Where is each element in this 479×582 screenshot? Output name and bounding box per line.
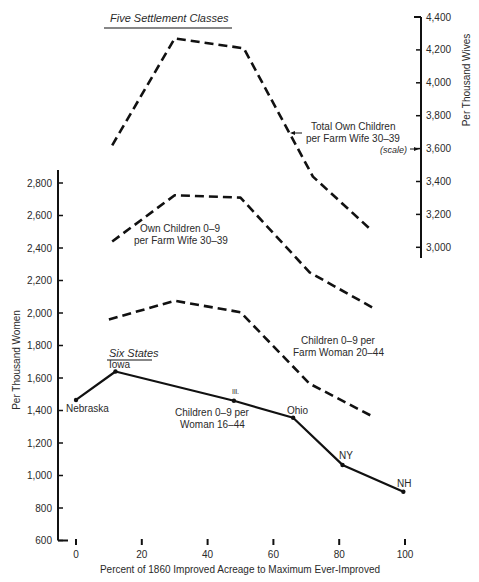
point-label-nh: NH bbox=[397, 478, 411, 489]
left-tick-label: 2,000 bbox=[27, 308, 52, 319]
annotation-woman-16-44-line2: Woman 16–44 bbox=[180, 419, 245, 430]
scale-arrowhead-icon bbox=[414, 147, 419, 151]
data-point-marker bbox=[340, 463, 344, 467]
point-label-ill: Ill. bbox=[232, 388, 239, 395]
point-label-nebraska: Nebraska bbox=[66, 403, 109, 414]
left-tick-label: 1,600 bbox=[27, 373, 52, 384]
heading-six-states: Six States bbox=[109, 347, 159, 359]
series-line bbox=[76, 372, 403, 492]
data-point-marker bbox=[291, 416, 295, 420]
point-label-ohio: Ohio bbox=[287, 405, 309, 416]
x-axis: 020406080100 bbox=[73, 539, 414, 560]
left-tick-label: 1,200 bbox=[27, 438, 52, 449]
x-tick-label: 0 bbox=[73, 549, 79, 560]
x-tick-label: 100 bbox=[397, 549, 414, 560]
left-tick-label: 2,400 bbox=[27, 243, 52, 254]
x-tick-label: 80 bbox=[334, 549, 346, 560]
fertility-chart: 6008001,0001,2001,4001,6001,8002,0002,20… bbox=[0, 0, 479, 582]
annotation-scale-note: (scale) bbox=[380, 145, 407, 155]
data-point-marker bbox=[74, 398, 78, 402]
left-tick-label: 600 bbox=[35, 535, 52, 546]
annotation-total-own-children-line2: per Farm Wife 30–39 bbox=[306, 133, 400, 144]
annotation-own-children-line2: per Farm Wife 30–39 bbox=[134, 235, 228, 246]
x-tick-label: 40 bbox=[202, 549, 214, 560]
annotation-own-children-line1: Own Children 0–9 bbox=[140, 223, 220, 234]
right-tick-label: 3,600 bbox=[426, 143, 451, 154]
right-y-axis: 3,0003,2003,4003,6003,8004,0004,2004,400 bbox=[414, 12, 451, 259]
right-y-axis-title: Per Thousand Wives bbox=[461, 34, 472, 127]
series-line bbox=[112, 195, 372, 307]
data-point-marker bbox=[232, 399, 236, 403]
right-tick-label: 3,800 bbox=[426, 110, 451, 121]
annotation-farm-woman-line2: Farm Woman 20–44 bbox=[293, 347, 384, 358]
left-tick-label: 800 bbox=[35, 503, 52, 514]
right-tick-label: 4,400 bbox=[426, 12, 451, 23]
right-tick-label: 3,400 bbox=[426, 176, 451, 187]
x-axis-title: Percent of 1860 Improved Acreage to Maxi… bbox=[100, 564, 380, 575]
left-y-axis-title: Per Thousand Women bbox=[11, 310, 22, 410]
left-tick-label: 2,600 bbox=[27, 210, 52, 221]
x-tick-label: 60 bbox=[268, 549, 280, 560]
annotation-woman-16-44-line1: Children 0–9 per bbox=[175, 407, 250, 418]
annotation-arrowhead-icon bbox=[290, 131, 295, 135]
left-tick-label: 1,800 bbox=[27, 340, 52, 351]
left-tick-label: 2,200 bbox=[27, 275, 52, 286]
annotation-farm-woman-line1: Children 0–9 per bbox=[301, 335, 376, 346]
right-tick-label: 4,200 bbox=[426, 44, 451, 55]
left-y-axis: 6008001,0001,2001,4001,6001,8002,0002,20… bbox=[27, 170, 68, 546]
left-tick-label: 1,400 bbox=[27, 405, 52, 416]
right-tick-label: 3,200 bbox=[426, 209, 451, 220]
point-label-iowa: Iowa bbox=[109, 359, 131, 370]
heading-five-settlement-classes: Five Settlement Classes bbox=[110, 12, 229, 24]
right-tick-label: 3,000 bbox=[426, 242, 451, 253]
right-tick-label: 4,000 bbox=[426, 77, 451, 88]
x-tick-label: 20 bbox=[136, 549, 148, 560]
annotation-total-own-children-line1: Total Own Children bbox=[311, 121, 395, 132]
left-tick-label: 1,000 bbox=[27, 470, 52, 481]
data-point-marker bbox=[401, 490, 405, 494]
point-label-ny: NY bbox=[339, 450, 353, 461]
left-tick-label: 2,800 bbox=[27, 178, 52, 189]
